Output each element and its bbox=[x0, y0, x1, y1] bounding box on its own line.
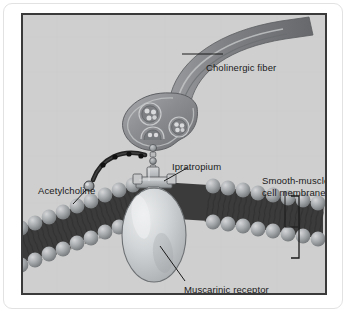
figure-page: Cholinergic fiber Ipratropium Acetylchol… bbox=[0, 0, 348, 316]
label-smooth-muscle-cell-membrane: Smooth-muscle cell membrane bbox=[262, 175, 327, 198]
label-cholinergic-fiber: Cholinergic fiber bbox=[206, 62, 276, 74]
synaptic-vesicle bbox=[139, 103, 161, 125]
label-muscarinic-receptor: Muscarinic receptor bbox=[184, 284, 269, 295]
label-ipratropium: Ipratropium bbox=[172, 161, 221, 173]
figure-frame: Cholinergic fiber Ipratropium Acetylchol… bbox=[21, 13, 327, 295]
muscarinic-receptor bbox=[122, 188, 186, 282]
label-smooth-muscle-line1: Smooth-muscle bbox=[262, 175, 327, 187]
synaptic-vesicle bbox=[169, 117, 189, 137]
diagram-canvas bbox=[23, 15, 325, 293]
label-smooth-muscle-line2: cell membrane bbox=[262, 187, 327, 199]
label-acetylcholine: Acetylcholine bbox=[38, 185, 95, 197]
